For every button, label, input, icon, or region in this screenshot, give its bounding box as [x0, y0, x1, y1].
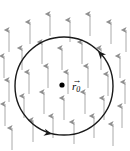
vector-field-figure: → r0 — [0, 0, 130, 151]
position-vector-subscript: 0 — [76, 85, 80, 94]
position-vector-origin-dot — [59, 82, 64, 87]
position-vector-label: r0 — [72, 81, 80, 94]
figure-canvas — [0, 0, 130, 151]
vector-field-arrow-group — [4, 14, 126, 150]
